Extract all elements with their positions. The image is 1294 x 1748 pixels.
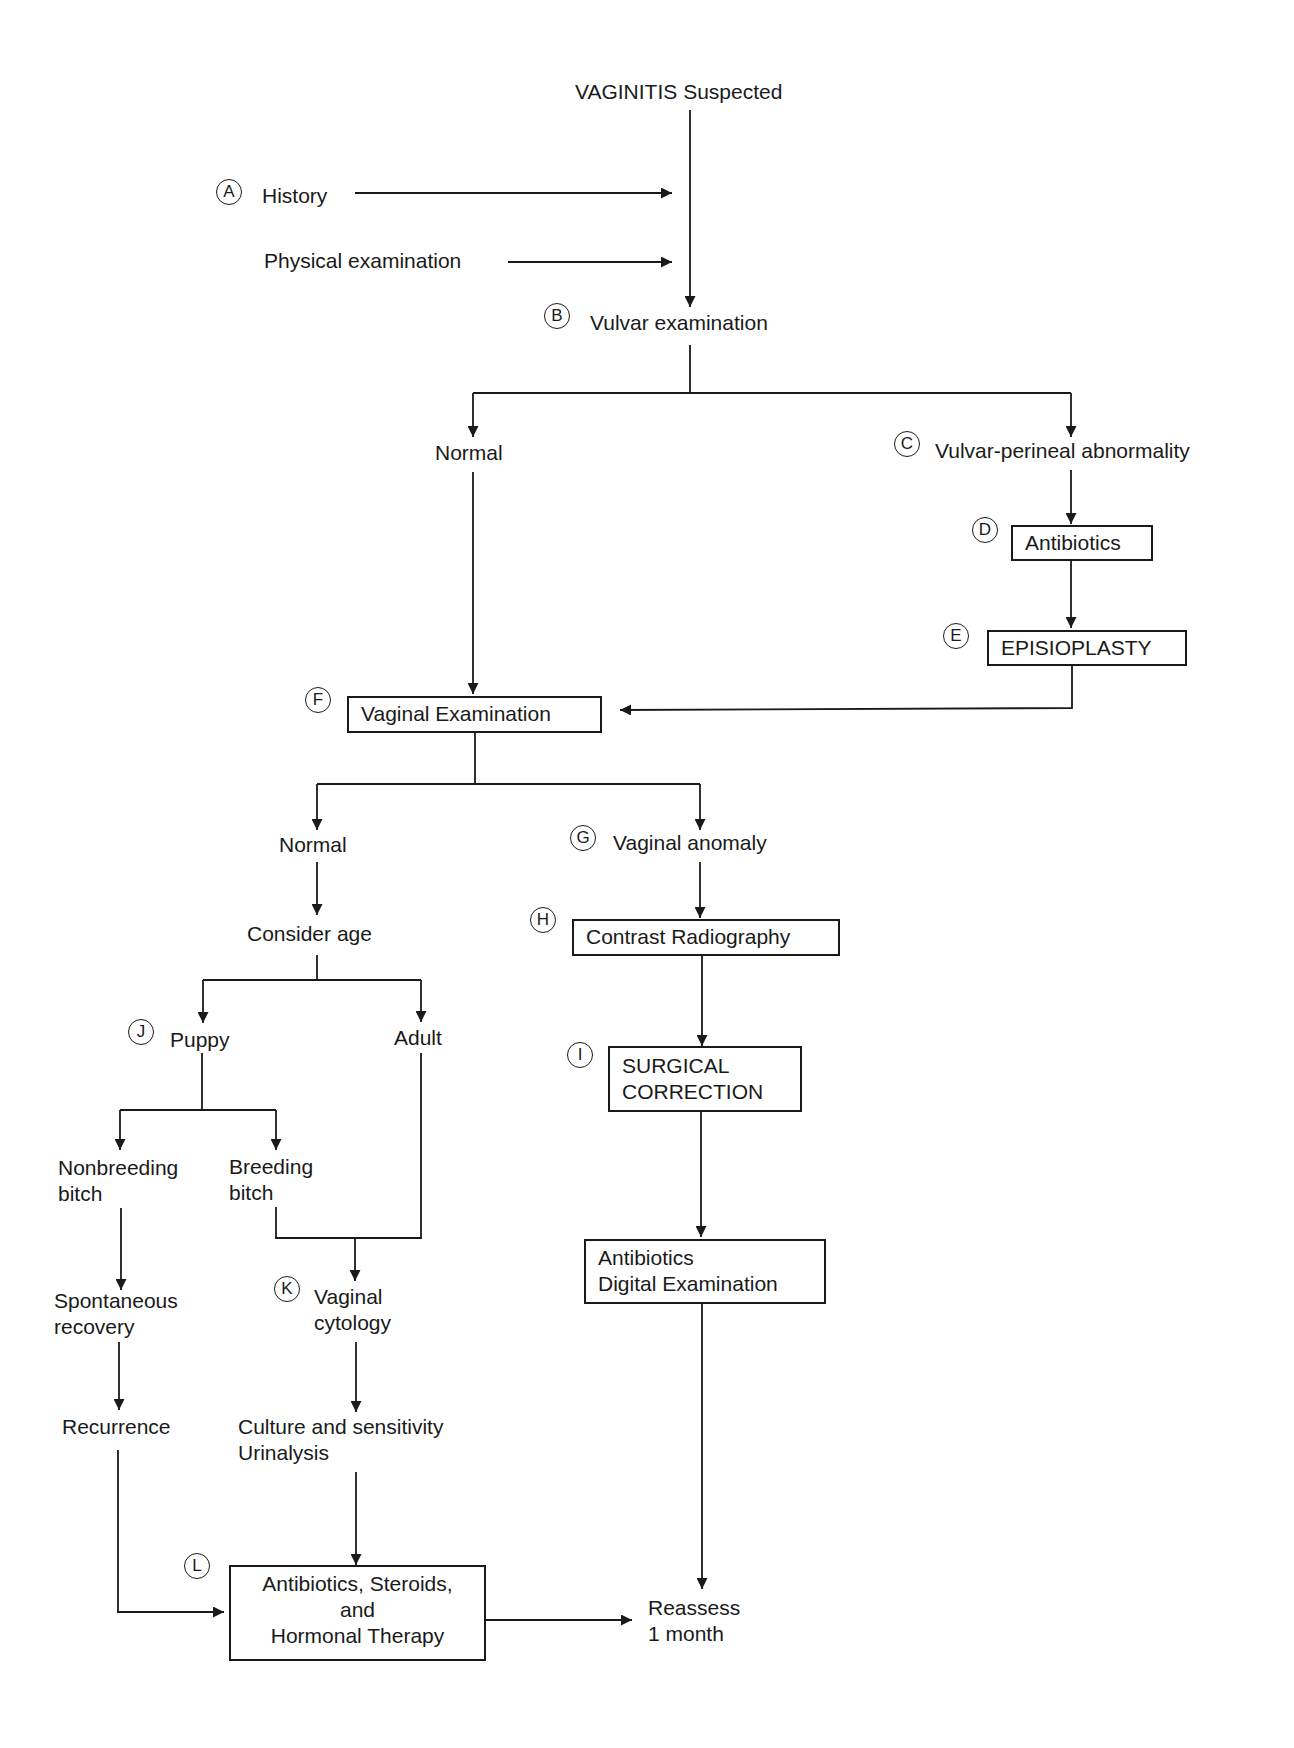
vaginitis-flowchart: VAGINITIS Suspected A History Physical e… [0,0,1294,1748]
therapy-line-1: Antibiotics, Steroids, [243,1571,472,1597]
culture-line-1: Culture and sensitivity [238,1414,443,1440]
cytology-line-1: Vaginal [314,1284,391,1310]
reassess-line-1: Reassess [648,1595,740,1621]
therapy-line-2: and [243,1597,472,1623]
node-history: History [262,183,327,209]
nonbreeding-line-1: Nonbreeding [58,1155,178,1181]
connector-layer [0,0,1294,1748]
marker-l-icon: L [184,1553,210,1579]
node-vaginal-cytology: Vaginal cytology [314,1284,391,1336]
marker-i-icon: I [567,1042,593,1068]
node-vaginal-normal: Normal [279,832,347,858]
node-consider-age: Consider age [247,921,372,947]
marker-c-icon: C [894,431,920,457]
node-contrast-radiography-box: Contrast Radiography [572,919,840,956]
spontaneous-line-1: Spontaneous [54,1288,178,1314]
cytology-line-2: cytology [314,1310,391,1336]
culture-line-2: Urinalysis [238,1440,443,1466]
surgical-line-2: CORRECTION [622,1079,788,1105]
node-vulvar-normal: Normal [435,440,503,466]
marker-g-icon: G [570,825,596,851]
node-reassess-1-month: Reassess 1 month [648,1595,740,1647]
antibiotics-digital-line-2: Digital Examination [598,1271,812,1297]
breeding-line-1: Breeding [229,1154,313,1180]
node-adult: Adult [394,1025,442,1051]
node-vulvar-examination: Vulvar examination [590,310,768,336]
marker-k-icon: K [274,1276,300,1302]
node-episioplasty-box: EPISIOPLASTY [987,630,1187,666]
reassess-line-2: 1 month [648,1621,740,1647]
node-vaginal-anomaly: Vaginal anomaly [613,830,767,856]
nonbreeding-line-2: bitch [58,1181,178,1207]
node-surgical-correction-box: SURGICAL CORRECTION [608,1046,802,1112]
node-therapy-box: Antibiotics, Steroids, and Hormonal Ther… [229,1565,486,1661]
marker-f-icon: F [305,687,331,713]
node-nonbreeding-bitch: Nonbreeding bitch [58,1155,178,1207]
marker-h-icon: H [530,907,556,933]
node-vaginal-examination-box: Vaginal Examination [347,696,602,733]
antibiotics-digital-line-1: Antibiotics [598,1245,812,1271]
therapy-line-3: Hormonal Therapy [243,1623,472,1649]
spontaneous-line-2: recovery [54,1314,178,1340]
node-puppy: Puppy [170,1027,230,1053]
surgical-line-1: SURGICAL [622,1053,788,1079]
marker-d-icon: D [972,517,998,543]
title-vaginitis-suspected: VAGINITIS Suspected [575,79,782,105]
node-physical-examination: Physical examination [264,248,461,274]
node-antibiotics-box: Antibiotics [1011,525,1153,561]
marker-a-icon: A [216,179,242,205]
node-vulvar-perineal-abnormality: Vulvar-perineal abnormality [935,438,1190,464]
marker-j-icon: J [128,1019,154,1045]
breeding-line-2: bitch [229,1180,313,1206]
node-recurrence: Recurrence [62,1414,171,1440]
node-antibiotics-digital-exam-box: Antibiotics Digital Examination [584,1239,826,1304]
node-breeding-bitch: Breeding bitch [229,1154,313,1206]
marker-b-icon: B [544,303,570,329]
node-spontaneous-recovery: Spontaneous recovery [54,1288,178,1340]
node-culture-urinalysis: Culture and sensitivity Urinalysis [238,1414,443,1466]
marker-e-icon: E [943,623,969,649]
